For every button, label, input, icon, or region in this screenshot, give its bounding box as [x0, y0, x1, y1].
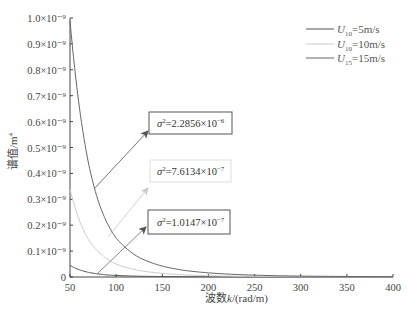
x-tick-label: 100	[108, 282, 124, 293]
x-tick-label: 150	[154, 282, 170, 293]
annotation-2: σ2=7.6134×10−7	[150, 160, 231, 182]
chart: 50100150200250300350400 00.1×10⁻⁹0.2×10⁻…	[0, 0, 409, 311]
legend-item-u10-10: U10=10m/s	[306, 38, 385, 53]
y-axis-title: 谱值/m4	[6, 132, 19, 170]
y-tick-label: 0.5×10⁻⁹	[27, 143, 66, 154]
svg-text:σ2=1.0147×10−7: σ2=1.0147×10−7	[157, 216, 225, 228]
y-tick-label: 0.2×10⁻⁹	[27, 220, 66, 231]
y-tick-label: 0.4×10⁻⁹	[27, 168, 66, 179]
y-ticks: 00.1×10⁻⁹0.2×10⁻⁹0.3×10⁻⁹0.4×10⁻⁹0.5×10⁻…	[27, 13, 73, 283]
series-line-1	[70, 189, 393, 277]
legend-item-u10-5: U10=5m/s	[306, 23, 380, 38]
y-tick-label: 0.3×10⁻⁹	[27, 194, 66, 205]
svg-text:U10=5m/s: U10=5m/s	[337, 23, 380, 38]
y-tick-label: 0.1×10⁻⁹	[27, 246, 66, 257]
x-axis-title: 波数k/(rad/m)	[205, 292, 268, 305]
y-tick-label: 0.7×10⁻⁹	[27, 91, 66, 102]
arrow-u10-5	[97, 227, 146, 274]
svg-text:σ2=2.2856×10−6: σ2=2.2856×10−6	[157, 117, 225, 129]
y-tick-label: 0.6×10⁻⁹	[27, 117, 66, 128]
svg-text:σ2=7.6134×10−7: σ2=7.6134×10−7	[157, 165, 225, 177]
annotation-arrows	[94, 131, 148, 274]
y-tick-label: 0.9×10⁻⁹	[27, 39, 66, 50]
arrow-u15	[94, 131, 148, 189]
y-tick-label: 1.0×10⁻⁹	[27, 13, 66, 24]
x-tick-label: 350	[339, 282, 355, 293]
svg-text:U15=15m/s: U15=15m/s	[337, 52, 385, 67]
y-tick-label: 0.8×10⁻⁹	[27, 65, 66, 76]
y-tick-label: 0	[61, 272, 66, 283]
x-tick-label: 400	[385, 282, 401, 293]
annotation-3: σ2=1.0147×10−7	[148, 210, 230, 234]
arrow-u10-10	[108, 188, 148, 237]
x-tick-label: 50	[65, 282, 76, 293]
legend-item-u15-15: U15=15m/s	[306, 52, 385, 67]
svg-text:U10=10m/s: U10=10m/s	[337, 38, 385, 53]
series-line-0	[70, 265, 393, 277]
x-tick-label: 300	[293, 282, 309, 293]
legend: U10=5m/s U10=10m/s U15=15m/s	[306, 23, 385, 67]
annotation-1: σ2=2.2856×10−6	[149, 112, 232, 134]
